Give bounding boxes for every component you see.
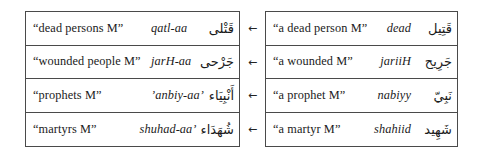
table-row: “martyrs M” shuhad-aa’ شُهَدَاء [26, 113, 239, 147]
arabic-script-text: قَتْلى [209, 21, 234, 36]
gloss-text: “a prophet M” [273, 88, 378, 103]
transliteration-text: dead [381, 21, 411, 36]
gloss-text: “a martyr M” [273, 122, 374, 137]
transliteration-text: shuhad-aa’ [140, 122, 197, 137]
gloss-text: “wounded people M” [33, 54, 151, 69]
linguistic-derivation-figure: “dead persons M” qatl-aa قَتْلى “wounded… [0, 0, 492, 157]
table-row: “wounded people M” jarH-aa جَرْحى [26, 46, 239, 80]
table-row: “prophets M” ’anbiy-aa’ أَنْبِيَاء [26, 79, 239, 113]
derivation-arrow-column: ← ← ← ← [240, 12, 265, 146]
left-arrow-icon: ← [240, 79, 265, 113]
table-row: “a martyr M” shahiid شَهِيد [266, 113, 457, 147]
gloss-text: “martyrs M” [33, 122, 140, 137]
transliteration-text: jarH-aa [151, 54, 196, 69]
transliteration-text: ’anbiy-aa’ [151, 88, 205, 103]
transliteration-text: nabiyy [378, 88, 411, 103]
arabic-script-text: شُهَدَاء [201, 122, 234, 137]
arabic-script-text: شَهِيد [418, 122, 452, 137]
arabic-script-text: أَنْبِيَاء [209, 88, 234, 103]
table-row: “a wounded M” jariiH جَرِيح [266, 46, 457, 80]
left-arrow-icon: ← [240, 46, 265, 80]
arabic-script-text: جَرِيح [418, 54, 452, 69]
table-row: “dead persons M” qatl-aa قَتْلى [26, 12, 239, 46]
plural-forms-table: “dead persons M” qatl-aa قَتْلى “wounded… [25, 11, 240, 147]
gloss-text: “a wounded M” [273, 54, 380, 69]
gloss-text: “prophets M” [33, 88, 151, 103]
left-arrow-icon: ← [240, 12, 265, 46]
singular-forms-table: “a dead person M” dead قَتِيل “a wounded… [265, 11, 458, 147]
transliteration-text: qatl-aa [151, 21, 205, 36]
transliteration-text: shahiid [374, 122, 411, 137]
arabic-script-text: نَبِيّ [418, 88, 452, 103]
arabic-script-text: جَرْحى [200, 54, 234, 69]
gloss-text: “dead persons M” [33, 21, 151, 36]
table-row: “a dead person M” dead قَتِيل [266, 12, 457, 46]
arabic-script-text: قَتِيل [418, 21, 452, 36]
left-arrow-icon: ← [240, 113, 265, 147]
gloss-text: “a dead person M” [273, 21, 381, 36]
table-row: “a prophet M” nabiyy نَبِيّ [266, 79, 457, 113]
transliteration-text: jariiH [380, 54, 411, 69]
